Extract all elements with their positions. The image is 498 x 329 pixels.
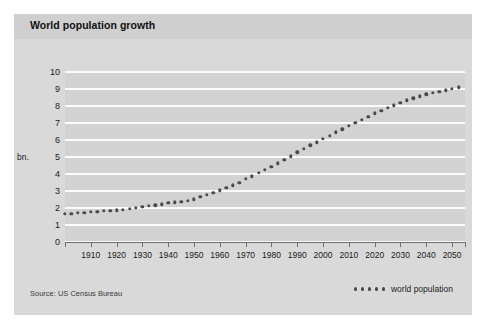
data-point <box>205 193 208 196</box>
x-axis-tick <box>452 242 453 247</box>
data-point <box>212 191 215 194</box>
data-point <box>412 97 415 100</box>
data-point <box>450 87 453 90</box>
y-axis-tick-label: 9 <box>55 84 60 94</box>
legend-label-world-population: world population <box>391 284 453 294</box>
chart-card: World population growth 012345678910 bn.… <box>14 14 472 315</box>
data-point <box>386 106 389 109</box>
gridline <box>65 139 465 141</box>
plot-area <box>65 72 465 242</box>
data-point <box>173 201 176 204</box>
x-axis-tick-label: 2030 <box>391 250 410 260</box>
data-point <box>225 186 228 189</box>
data-point <box>108 209 111 212</box>
data-point <box>76 211 79 214</box>
data-point <box>63 212 66 215</box>
legend-marker-dots <box>354 287 385 290</box>
data-point <box>354 121 357 124</box>
data-point <box>89 210 92 213</box>
y-axis-tick-label: 10 <box>50 67 60 77</box>
gridline <box>65 105 465 107</box>
x-axis-tick <box>426 242 427 247</box>
y-axis-tick-label: 6 <box>55 135 60 145</box>
x-axis-tick-label: 1930 <box>133 250 152 260</box>
legend-dot <box>375 287 378 290</box>
x-axis-tick-label: 1910 <box>81 250 100 260</box>
data-point <box>283 158 286 161</box>
gridline <box>65 156 465 158</box>
data-point <box>296 151 299 154</box>
gridline <box>65 71 465 73</box>
x-axis-tick <box>168 242 169 247</box>
legend-dot <box>382 287 385 290</box>
data-point <box>186 199 189 202</box>
x-axis-tick <box>194 242 195 247</box>
y-axis-tick-label: 0 <box>55 237 60 247</box>
x-axis-tick <box>375 242 376 247</box>
data-point <box>341 128 344 131</box>
data-point <box>199 195 202 198</box>
x-axis-tick-label: 1920 <box>107 250 126 260</box>
x-axis-tick <box>400 242 401 247</box>
data-point <box>96 210 99 213</box>
x-axis-tick-label: 2010 <box>339 250 358 260</box>
data-point <box>373 111 376 114</box>
data-point <box>418 95 421 98</box>
gridline <box>65 88 465 90</box>
x-axis-tick <box>142 242 143 247</box>
data-point <box>367 115 370 118</box>
y-axis-tick-label: 1 <box>55 220 60 230</box>
data-point <box>360 118 363 121</box>
data-point <box>237 181 240 184</box>
data-point <box>115 209 118 212</box>
x-axis-end-tick <box>65 242 66 247</box>
gridline <box>65 122 465 124</box>
page-title: World population growth <box>30 19 155 31</box>
data-point <box>167 201 170 204</box>
data-point <box>102 209 105 212</box>
y-axis-tick-label: 5 <box>55 152 60 162</box>
data-point <box>121 208 124 211</box>
x-axis-tick-label: 2050 <box>443 250 462 260</box>
legend-dot <box>361 287 364 290</box>
data-point <box>70 212 73 215</box>
y-axis-ticks: 012345678910 <box>42 72 60 242</box>
data-point <box>263 168 266 171</box>
legend-dot <box>354 287 357 290</box>
y-axis-tick-label: 7 <box>55 118 60 128</box>
data-point <box>379 109 382 112</box>
y-axis-tick-label: 4 <box>55 169 60 179</box>
y-axis-tick-label: 8 <box>55 101 60 111</box>
data-point <box>431 91 434 94</box>
x-axis-tick-label: 1980 <box>262 250 281 260</box>
x-axis-tick <box>246 242 247 247</box>
x-axis-tick <box>349 242 350 247</box>
x-axis-tick-label: 2040 <box>417 250 436 260</box>
x-axis-tick-label: 1940 <box>159 250 178 260</box>
gridline <box>65 173 465 175</box>
data-point <box>179 200 182 203</box>
data-point <box>437 90 440 93</box>
data-point <box>192 197 195 200</box>
x-axis-tick <box>91 242 92 247</box>
source-note: Source: US Census Bureau <box>30 289 122 298</box>
gridline <box>65 224 465 226</box>
data-point <box>160 203 163 206</box>
x-axis-tick-label: 1990 <box>288 250 307 260</box>
data-point <box>328 134 331 137</box>
x-axis-tick-label: 1950 <box>185 250 204 260</box>
x-axis-tick-label: 2000 <box>314 250 333 260</box>
chart-region: 012345678910 bn. 19101920193019401950196… <box>14 39 472 315</box>
data-point <box>425 93 428 96</box>
data-point <box>83 211 86 214</box>
data-point <box>334 131 337 134</box>
data-point <box>399 101 402 104</box>
data-point <box>250 175 253 178</box>
data-point <box>276 162 279 165</box>
y-axis-tick-label: 3 <box>55 186 60 196</box>
chart-title-band: World population growth <box>14 14 472 39</box>
legend-dot <box>368 287 371 290</box>
x-axis-tick-label: 1960 <box>210 250 229 260</box>
data-point <box>347 124 350 127</box>
data-point <box>315 141 318 144</box>
